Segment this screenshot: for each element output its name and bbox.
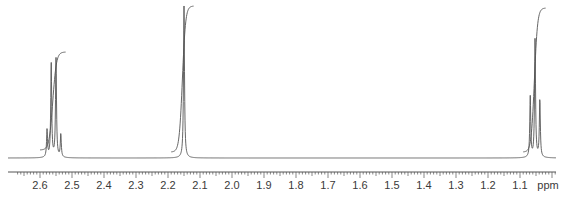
x-tick-label: 1.4 — [416, 179, 431, 191]
x-axis: 2.62.52.42.32.22.12.01.91.81.71.61.51.41… — [8, 172, 556, 191]
x-tick-label: 1.5 — [384, 179, 399, 191]
x-axis-unit-label: ppm — [537, 179, 558, 191]
x-tick-label: 1.6 — [352, 179, 367, 191]
x-tick-label: 2.4 — [96, 179, 111, 191]
x-tick-label: 1.7 — [320, 179, 335, 191]
integral-curves — [40, 6, 546, 152]
x-tick-label: 2.6 — [32, 179, 47, 191]
x-tick-label: 2.3 — [128, 179, 143, 191]
x-tick-label: 2.2 — [160, 179, 175, 191]
integral-curve — [40, 52, 66, 150]
x-tick-label: 1.3 — [448, 179, 463, 191]
x-tick-label: 2.0 — [224, 179, 239, 191]
x-tick-label: 2.1 — [192, 179, 207, 191]
x-tick-label: 1.8 — [288, 179, 303, 191]
x-tick-label: 1.2 — [480, 179, 495, 191]
x-tick-label: 1.9 — [256, 179, 271, 191]
nmr-spectrum-plot: 2.62.52.42.32.22.12.01.91.81.71.61.51.41… — [0, 0, 562, 197]
spectrum-trace — [8, 6, 556, 158]
x-tick-label: 2.5 — [64, 179, 79, 191]
integral-curve — [523, 8, 545, 152]
x-tick-label: 1.1 — [512, 179, 527, 191]
